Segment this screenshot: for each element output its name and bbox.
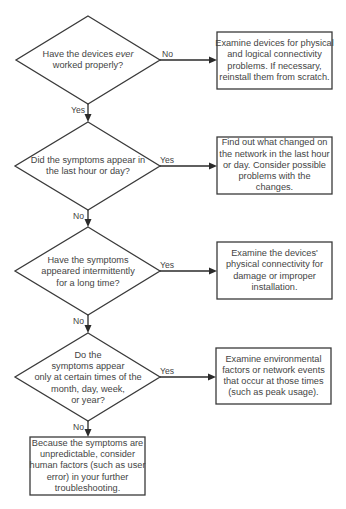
action-4-line-4: (such as peak usage).: [222, 387, 325, 398]
action-text-1: Examine devices for physical and logical…: [217, 32, 332, 89]
action-1-line-1: Examine devices for physical: [215, 38, 333, 49]
action-4-line-2: factors or network events: [222, 365, 325, 376]
action-2-line-2: the network in the last hour: [219, 149, 329, 160]
edge-label-d1-yes: Yes: [71, 105, 85, 115]
decision-1-text-pre: Have the devices: [43, 49, 116, 59]
edge-label-d3-yes: Yes: [160, 260, 174, 270]
action-4-line-3: that occur at those times: [222, 376, 325, 387]
arrowhead-icon: [85, 219, 92, 227]
edge-label-d2-yes: Yes: [160, 155, 174, 165]
action-text-5: Because the symptoms are unpredictable, …: [30, 437, 145, 495]
decision-4-line-5: or year?: [34, 395, 141, 406]
decision-2-line-2: the last hour or day?: [31, 166, 145, 177]
edge-label-d3-no: No: [73, 316, 84, 326]
decision-1-line-1: Have the devices ever: [43, 49, 134, 60]
action-text-3: Examine the devices' physical connectivi…: [217, 242, 332, 299]
arrowhead-icon: [85, 429, 92, 437]
action-3-line-2: physical connectivity for: [226, 259, 323, 270]
action-text-2: Find out what changed on the network in …: [217, 137, 332, 194]
arrowhead-icon: [209, 163, 217, 170]
edge-label-d2-no: No: [73, 211, 84, 221]
action-3-line-4: installation.: [226, 282, 323, 293]
action-2-line-5: changes.: [219, 182, 329, 193]
action-5-line-2: unpredictable, consider: [30, 449, 146, 460]
decision-1-line-2: worked properly?: [43, 60, 134, 71]
decision-text-4: Do the symptoms appear only at certain t…: [24, 349, 152, 407]
decision-text-2: Did the symptoms appear in the last hour…: [28, 150, 148, 182]
action-5-line-1: Because the symptoms are: [30, 438, 146, 449]
decision-3-line-3: for a long time?: [41, 278, 134, 289]
decision-4-line-3: only at certain times of the: [34, 372, 141, 383]
decision-4-line-1: Do the: [34, 350, 141, 361]
action-5-line-3: human factors (such as user: [30, 460, 146, 471]
action-1-line-4: reinstall them from scratch.: [215, 72, 333, 83]
action-2-line-3: or day. Consider possible: [219, 160, 329, 171]
decision-4-line-4: month, day, week,: [34, 384, 141, 395]
decision-text-3: Have the symptoms appeared intermittentl…: [30, 253, 146, 291]
edge-label-d4-no: No: [73, 422, 84, 432]
decision-2-line-1: Did the symptoms appear in: [31, 155, 145, 166]
arrowhead-icon: [85, 325, 92, 333]
action-1-line-3: problems. If necessary,: [215, 61, 333, 72]
edge-label-d1-no: No: [162, 49, 173, 59]
decision-1-text-italic: ever: [116, 49, 134, 59]
decision-text-1: Have the devices ever worked properly?: [36, 44, 140, 76]
action-1-line-2: and logical connectivity: [215, 49, 333, 60]
action-3-line-1: Examine the devices': [226, 248, 323, 259]
action-5-line-4: error) in your further: [30, 472, 146, 483]
decision-4-line-2: symptoms appear: [34, 361, 141, 372]
arrowhead-icon: [85, 114, 92, 122]
action-text-4: Examine environmental factors or network…: [216, 348, 331, 404]
decision-3-line-2: appeared intermittently: [41, 266, 134, 277]
action-2-line-1: Find out what changed on: [219, 137, 329, 148]
arrowhead-icon: [208, 374, 216, 381]
action-4-line-1: Examine environmental: [222, 354, 325, 365]
action-5-line-5: troubleshooting.: [30, 483, 146, 494]
action-3-line-3: damage or improper: [226, 271, 323, 282]
action-2-line-4: problems with the: [219, 171, 329, 182]
decision-3-line-1: Have the symptoms: [41, 255, 134, 266]
arrowhead-icon: [209, 268, 217, 275]
edge-label-d4-yes: Yes: [160, 366, 174, 376]
